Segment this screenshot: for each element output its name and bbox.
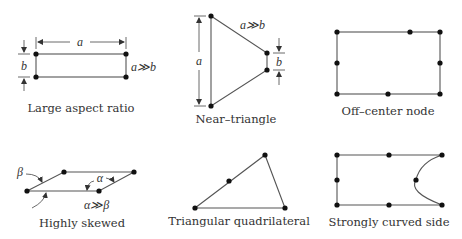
node <box>334 202 339 207</box>
dimension-a-label: a <box>77 35 83 49</box>
condition-label: a≫b <box>240 18 265 32</box>
node <box>334 60 339 65</box>
panel-highly-skewed: β α α≫β Highly skewed <box>16 165 137 230</box>
node <box>33 74 38 79</box>
node <box>262 152 267 157</box>
node <box>208 103 213 108</box>
element-shape <box>337 32 440 94</box>
element-shape <box>36 54 126 77</box>
node <box>61 169 66 174</box>
dimension-b-label: b <box>21 59 27 73</box>
node <box>437 29 442 34</box>
node <box>437 91 442 96</box>
angle-beta-label: β <box>16 165 23 179</box>
node <box>131 169 136 174</box>
node <box>334 152 339 157</box>
node <box>264 50 269 55</box>
node <box>334 177 339 182</box>
node <box>226 178 231 183</box>
node <box>33 51 38 56</box>
node <box>385 91 390 96</box>
node <box>439 202 444 207</box>
condition-label: a≫b <box>131 60 156 74</box>
node <box>24 188 29 193</box>
dimension-b-label: b <box>276 55 282 69</box>
node <box>386 152 391 157</box>
panel-off-center-node: Off–center node <box>334 29 442 118</box>
dimension-a-label: a <box>196 54 202 68</box>
caption: Strongly curved side <box>329 215 450 229</box>
node <box>96 188 101 193</box>
node <box>334 29 339 34</box>
condition-label: α≫β <box>84 198 109 212</box>
node <box>437 60 442 65</box>
caption: Triangular quadrilateral <box>168 214 310 228</box>
panel-triangular-quadrilateral: Triangular quadrilateral <box>168 152 310 228</box>
panel-large-aspect-ratio: a b a≫b Large aspect ratio <box>18 35 156 115</box>
panel-near-triangle: a b a≫b Near–triangle <box>194 13 285 126</box>
element-shape <box>337 155 442 205</box>
node <box>123 74 128 79</box>
caption: Large aspect ratio <box>27 101 134 115</box>
node <box>192 205 197 210</box>
element-shape <box>27 172 134 191</box>
node <box>264 67 269 72</box>
node <box>282 205 287 210</box>
node <box>413 177 418 182</box>
angle-alpha-label: α <box>97 171 104 185</box>
node <box>123 51 128 56</box>
node <box>208 13 213 18</box>
element-distortion-diagram: a b a≫b Large aspect ratio a b a≫b Near–… <box>0 0 462 239</box>
node <box>386 202 391 207</box>
caption: Near–triangle <box>196 112 277 126</box>
element-shape <box>195 155 285 208</box>
panel-strongly-curved-side: Strongly curved side <box>329 152 450 229</box>
caption: Off–center node <box>341 104 434 118</box>
node <box>334 91 339 96</box>
caption: Highly skewed <box>39 216 126 230</box>
node <box>407 29 412 34</box>
node <box>439 152 444 157</box>
